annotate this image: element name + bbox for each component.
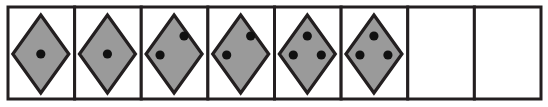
- sequence-strip: [0, 0, 548, 107]
- dot-center: [36, 49, 45, 58]
- sequence-cell-1: [8, 7, 75, 99]
- sequence-cell-4: [208, 7, 275, 99]
- dot-left: [155, 50, 164, 59]
- dot-top-right: [179, 31, 188, 40]
- sequence-cell-8-empty: [474, 7, 541, 99]
- sequence-cell-2: [75, 7, 142, 99]
- sequence-cell-7-empty: [408, 7, 475, 99]
- dot-left: [355, 50, 364, 59]
- sequence-cell-5: [275, 7, 342, 99]
- dot-right: [383, 50, 392, 59]
- cell-box: [474, 7, 541, 99]
- cell-box: [408, 7, 475, 99]
- dot-right: [317, 50, 326, 59]
- dot-center: [103, 49, 112, 58]
- dot-left: [289, 50, 298, 59]
- sequence-cell-3: [141, 7, 208, 99]
- dot-top: [303, 31, 312, 40]
- dot-left: [222, 50, 231, 59]
- dot-top-right: [246, 31, 255, 40]
- dot-top: [369, 31, 378, 40]
- sequence-cell-6: [341, 7, 408, 99]
